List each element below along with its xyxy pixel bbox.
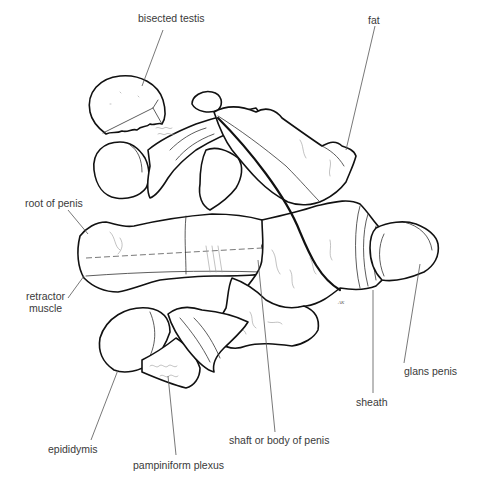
fat-lobe-middle bbox=[199, 148, 241, 210]
label-glans-penis: glans penis bbox=[404, 365, 457, 377]
second-testis-drawing bbox=[94, 142, 149, 199]
label-retractor-muscle: retractor muscle bbox=[26, 290, 65, 314]
lower-testis-drawing bbox=[100, 307, 248, 388]
label-bisected-testis: bisected testis bbox=[138, 12, 205, 24]
label-root-of-penis: root of penis bbox=[25, 197, 83, 209]
glans-penis-drawing bbox=[370, 222, 438, 281]
label-fat: fat bbox=[368, 14, 380, 26]
artist-signature: AK bbox=[338, 300, 344, 305]
drawing-canvas bbox=[0, 0, 477, 493]
label-shaft-or-body-of-penis: shaft or body of penis bbox=[229, 434, 329, 446]
bisected-testis-drawing bbox=[89, 76, 165, 134]
label-epididymis: epididymis bbox=[48, 443, 98, 455]
anatomical-diagram: bisected testis fat root of penis retrac… bbox=[0, 0, 477, 493]
label-sheath: sheath bbox=[356, 396, 388, 408]
label-pampiniform-plexus: pampiniform plexus bbox=[133, 459, 224, 471]
